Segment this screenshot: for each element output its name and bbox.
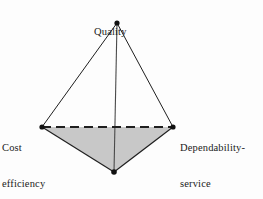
diagram-canvas: Quality Cost efficiency Dependability- s… <box>0 0 263 199</box>
vertex-label-cost-efficiency-line1: Cost <box>2 142 45 154</box>
vertex-label-cost-efficiency: Cost efficiency <box>2 118 45 199</box>
shaded-face-bottom <box>42 127 173 172</box>
vertex-label-dependability-service: Dependability- service <box>180 118 245 199</box>
vertex-dot-flexibility <box>111 169 117 175</box>
vertex-label-quality: Quality <box>94 2 127 62</box>
vertex-label-dependability-service-line2: service <box>180 178 245 190</box>
vertex-dot-dependability-service <box>170 124 175 129</box>
vertex-label-flexibility: Flexibility <box>86 178 131 199</box>
vertex-label-dependability-service-line1: Dependability- <box>180 142 245 154</box>
vertex-label-quality-line1: Quality <box>94 26 127 38</box>
vertex-label-cost-efficiency-line2: efficiency <box>2 178 45 190</box>
